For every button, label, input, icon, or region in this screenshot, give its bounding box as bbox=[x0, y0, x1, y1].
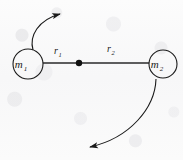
distance-label-r1-main: r bbox=[54, 45, 58, 56]
mass-label-2-sub: 2 bbox=[160, 65, 164, 73]
mass-label-1: m1 bbox=[15, 58, 27, 73]
two-body-diagram: m1 m2 r1 r2 bbox=[0, 0, 183, 160]
distance-label-r1-sub: 1 bbox=[58, 51, 61, 58]
orbit-arrow-bottom bbox=[90, 79, 156, 147]
distance-label-r2: r2 bbox=[107, 43, 115, 56]
distance-label-r2-sub: 2 bbox=[111, 49, 115, 56]
figure-canvas: m1 m2 r1 r2 bbox=[0, 0, 183, 160]
mass-label-2: m2 bbox=[151, 58, 164, 73]
mass-label-1-main: m bbox=[15, 58, 23, 70]
distance-label-r1: r1 bbox=[54, 45, 62, 58]
mass-label-1-sub: 1 bbox=[24, 65, 28, 73]
mass-label-2-main: m bbox=[151, 58, 159, 70]
barycenter-dot bbox=[76, 60, 82, 66]
distance-label-r2-main: r bbox=[107, 43, 111, 54]
